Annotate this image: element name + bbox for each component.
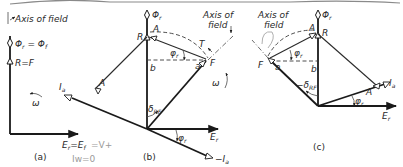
handwritten-iw-label: Iw=0: [72, 154, 96, 164]
a2-label-b: A: [98, 78, 105, 88]
phi-diamond-marker-c: [316, 10, 321, 20]
axis-of-field-label-a: Axis of field: [14, 14, 68, 24]
axis-of-field-label-c2: field: [264, 20, 284, 30]
ia-label-c: Ia: [389, 78, 396, 89]
phi-r-angle2-label-b: φr: [178, 133, 187, 144]
neg-ia-label-b: −Ia: [215, 154, 229, 165]
handwritten-v-label: =V+: [91, 140, 112, 150]
r-eq-f-label-a: R=F: [15, 58, 35, 68]
axis-of-field-line-b: [208, 36, 233, 60]
b-label-b: b: [150, 63, 156, 73]
t-label-b: T: [199, 39, 206, 49]
b-label-c: b: [311, 64, 317, 74]
omega-rotation-arrow-a: [30, 93, 42, 97]
scan-edge-curve: [10, 0, 400, 4]
phi-r-label-b: Φr: [152, 10, 162, 21]
r-f-arrowhead-a: [7, 58, 13, 64]
phasor-diagram-figure: Axis of field Φr = Φf R=F ω Er=Ef =V+ Iw…: [0, 0, 403, 167]
phi-r-label-c: Φr: [322, 10, 332, 21]
r-label-c: R: [322, 28, 328, 38]
omega-rotation-arrow-b: [225, 73, 227, 88]
a-label-b: A: [152, 24, 159, 34]
caption-c: (c): [313, 142, 325, 152]
panel-b: Φr R A b φr a F Axis of field T ω δRF: [59, 10, 235, 165]
phi-diamond-marker-b: [145, 10, 150, 20]
a-small-label-c: a: [275, 62, 281, 72]
er-ef-label-a: Er=Ef: [62, 140, 86, 151]
caption-b: (b): [143, 152, 156, 162]
delta-rf-label-b: δRF: [148, 104, 162, 115]
axis-of-field-label-b2: field: [208, 20, 228, 30]
omega-label-b: ω: [212, 78, 220, 88]
phi-diamond-marker-a: [8, 38, 13, 48]
er-label-b: Er: [210, 132, 219, 143]
a-label-c: A: [308, 23, 315, 33]
r-label-b: R: [137, 32, 143, 42]
ia-phasor-b: [72, 98, 147, 129]
a2-label-c: A: [365, 87, 372, 97]
f-vector-b: [147, 61, 206, 129]
phi-eq-label-a: Φr = Φf: [15, 39, 48, 50]
phi-r-angle-label-b: φr: [170, 48, 179, 59]
panel-c: Axis of field Φr A R b φr F a −δRF: [252, 10, 396, 152]
pencil-loop-c: [262, 32, 273, 48]
neg-delta-rf-label-c: −δRF: [296, 80, 317, 91]
omega-label-a: ω: [32, 98, 40, 108]
caption-a: (a): [34, 152, 47, 162]
ia-line-c: [318, 34, 376, 85]
f-label-b: F: [210, 58, 216, 68]
ia-label-b: Ia: [59, 82, 66, 93]
axis-of-field-label-c1: Axis of: [257, 10, 290, 20]
a-vector-c: [270, 34, 316, 58]
a-small-label-b: a: [195, 61, 201, 71]
axis-of-field-label-b1: Axis of: [202, 10, 235, 20]
er-label-c: Er: [382, 111, 391, 122]
f-label-c: F: [258, 60, 264, 70]
axis-of-field-line-c: [252, 40, 268, 58]
phi-r-angle-label-c: φr: [294, 48, 303, 59]
